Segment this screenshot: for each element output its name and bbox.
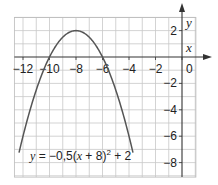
- y-tick-label: −4: [163, 103, 177, 117]
- equation-label: y = −0,5(x + 8)2 + 2: [29, 148, 132, 163]
- x-axis-arrow-icon: [203, 54, 212, 60]
- x-tick-label: 0: [186, 62, 193, 76]
- y-axis-arrow-icon: [179, 3, 185, 12]
- y-tick-label: 2: [170, 24, 177, 38]
- x-tick-label: −12: [13, 62, 34, 76]
- x-axis-label: x: [185, 40, 192, 55]
- y-tick-label: −6: [163, 129, 177, 143]
- y-tick-label: −8: [163, 156, 177, 170]
- y-tick-label: −2: [163, 76, 177, 90]
- parabola-chart: −12−10−8−6−4−202−2−4−6−8 x y y = −0,5(x …: [0, 0, 218, 185]
- x-tick-label: −8: [69, 62, 83, 76]
- x-tick-label: −2: [149, 62, 163, 76]
- x-tick-label: −4: [122, 62, 136, 76]
- y-axis-label: y: [184, 15, 192, 30]
